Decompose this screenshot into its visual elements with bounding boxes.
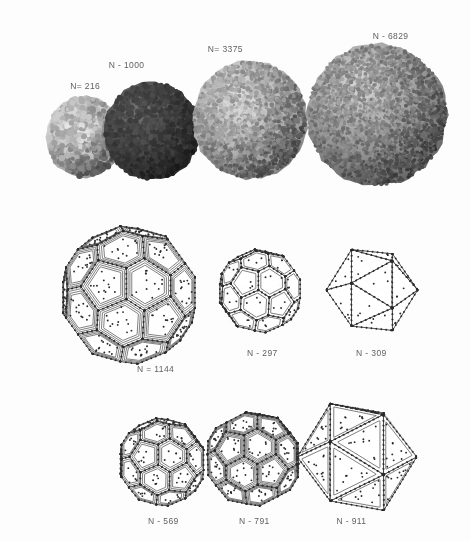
panel-label-n-309: N - 309 <box>356 348 387 358</box>
figure-canvas: N= 216N - 1000N= 3375N - 6829N = 1144N -… <box>0 0 471 541</box>
polyhedron-n-297 <box>206 237 314 345</box>
panel-label-n-569: N - 569 <box>148 516 179 526</box>
panel-label-n-297: N - 297 <box>247 348 278 358</box>
panel-label-n-791: N - 791 <box>239 516 270 526</box>
panel-label-n-1144: N = 1144 <box>137 364 174 374</box>
polyhedron-n-1144 <box>48 214 210 376</box>
polyhedron-n-309 <box>321 239 423 341</box>
panel-label-n-6829: N - 6829 <box>373 31 409 41</box>
panel-label-n-911: N - 911 <box>336 516 366 526</box>
polyhedron-n-911 <box>294 394 420 520</box>
panel-label-n-1000: N - 1000 <box>109 60 145 70</box>
panel-label-n-3375: N= 3375 <box>208 44 243 54</box>
cluster-n-6829 <box>293 30 461 200</box>
